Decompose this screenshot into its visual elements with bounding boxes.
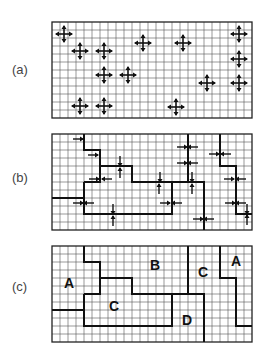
four-way-arrow-icon xyxy=(95,42,113,60)
arrow-right-icon xyxy=(177,161,188,166)
arrow-right-icon xyxy=(88,153,99,158)
arrow-right-icon xyxy=(225,201,236,206)
arrow-up-icon xyxy=(157,183,162,194)
panel-c-grid-regions: ABCCAD xyxy=(52,246,252,342)
four-way-arrow-icon xyxy=(230,50,248,68)
four-way-arrow-icon xyxy=(95,66,113,84)
four-way-arrow-icon xyxy=(134,34,152,52)
arrow-up-icon xyxy=(111,215,116,226)
arrow-up-icon xyxy=(190,183,195,194)
four-way-arrow-icon xyxy=(71,42,89,60)
four-way-arrow-icon xyxy=(95,97,113,115)
arrow-right-icon xyxy=(73,201,84,206)
four-way-arrow-icon xyxy=(198,74,216,92)
four-way-arrow-icon xyxy=(71,97,89,115)
region-label-c: C xyxy=(198,264,208,280)
four-way-arrow-icon xyxy=(230,25,248,43)
arrow-right-icon xyxy=(160,201,171,206)
arrow-right-icon xyxy=(89,177,100,182)
panel-b-grid-arrows xyxy=(52,134,252,230)
arrow-left-icon xyxy=(101,177,112,182)
arrow-right-icon xyxy=(177,145,188,150)
arrow-right-icon xyxy=(193,217,204,222)
panel-a-grid-crosses xyxy=(52,22,252,118)
arrow-up-icon xyxy=(245,214,250,225)
arrow-up-icon xyxy=(118,167,123,178)
region-label-a: A xyxy=(64,275,74,291)
four-way-arrow-icon xyxy=(230,74,248,92)
arrow-left-icon xyxy=(220,152,231,157)
segmentation-diagram: ABCCAD xyxy=(0,0,265,354)
arrow-right-icon xyxy=(73,137,84,142)
region-label-d: D xyxy=(182,312,192,328)
arrow-right-icon xyxy=(209,152,220,157)
arrow-right-icon xyxy=(224,177,235,182)
region-label-b: B xyxy=(150,257,160,273)
four-way-arrow-icon xyxy=(119,66,137,84)
four-way-arrow-icon xyxy=(167,98,185,116)
four-way-arrow-icon xyxy=(174,34,192,52)
region-label-a: A xyxy=(231,253,241,269)
four-way-arrow-icon xyxy=(55,25,73,43)
region-label-c: C xyxy=(109,298,119,314)
